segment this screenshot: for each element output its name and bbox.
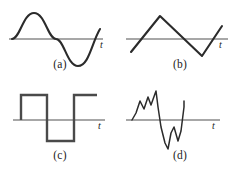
- panel-caption-c: (c): [0, 149, 120, 161]
- triangle-wave-path-b: [131, 16, 222, 56]
- waveform-figure: t (a) t (b) t (c): [0, 0, 240, 179]
- axis-label-b: t: [219, 39, 222, 50]
- square-wave-path-c: [21, 95, 97, 141]
- axis-label-a: t: [100, 39, 103, 50]
- panel-a: t (a): [0, 0, 120, 89]
- panel-b: t (b): [120, 0, 240, 89]
- axis-label-d: t: [212, 120, 215, 131]
- panel-caption-a: (a): [0, 58, 120, 70]
- panel-d-plot: t: [120, 87, 240, 157]
- panel-c-plot: t: [0, 87, 120, 157]
- panel-caption-b: (b): [120, 58, 240, 70]
- axis-label-c: t: [98, 120, 101, 131]
- panel-caption-d: (d): [120, 149, 240, 161]
- panel-c: t (c): [0, 87, 120, 176]
- panel-d: t (d): [120, 87, 240, 176]
